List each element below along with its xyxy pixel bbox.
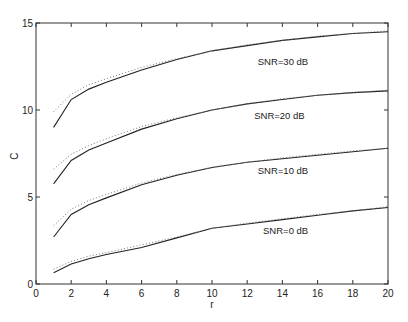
snr-label: SNR=10 dB (258, 165, 308, 176)
x-tick-label: 2 (68, 288, 74, 299)
x-axis-label: r (210, 299, 214, 310)
capacity-chart: 02468101214161820 051015 SNR=30 dBSNR=20… (0, 0, 408, 322)
y-tick-label: 10 (22, 105, 34, 116)
y-tick-label: 0 (27, 279, 33, 290)
x-tick-label: 6 (139, 288, 145, 299)
x-tick-label: 20 (382, 288, 394, 299)
series-line (54, 148, 388, 237)
x-tick-label: 18 (347, 288, 359, 299)
y-tick-label: 15 (22, 18, 34, 29)
snr-label: SNR=0 dB (263, 225, 308, 236)
series-line (54, 207, 388, 272)
x-tick-label: 14 (277, 288, 289, 299)
series-line (54, 148, 388, 225)
series-line (54, 91, 388, 184)
snr-label: SNR=20 dB (254, 110, 304, 121)
snr-annotations: SNR=30 dBSNR=20 dBSNR=10 dBSNR=0 dB (254, 56, 308, 237)
y-axis-label: C (9, 152, 20, 159)
x-tick-label: 0 (33, 288, 39, 299)
x-tick-label: 4 (104, 288, 110, 299)
x-tick-label: 12 (242, 288, 254, 299)
x-tick-label: 10 (206, 288, 218, 299)
plot-curves (54, 31, 388, 273)
x-tick-label: 16 (312, 288, 324, 299)
series-line (54, 31, 388, 112)
snr-label: SNR=30 dB (258, 56, 308, 67)
series-line (54, 90, 388, 169)
x-axis-ticks: 02468101214161820 (33, 23, 394, 299)
x-tick-label: 8 (174, 288, 180, 299)
y-tick-label: 5 (27, 192, 33, 203)
series-line (54, 32, 388, 128)
series-line (54, 207, 388, 270)
